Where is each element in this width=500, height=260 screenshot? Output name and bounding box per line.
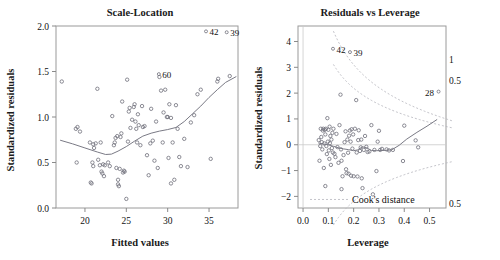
residuals-leverage-title: Residuals vs Leverage: [320, 7, 420, 18]
cooks-distance-legend-label: Cook's distance: [352, 194, 415, 205]
ytick-label: 1.5: [37, 67, 49, 77]
point-label-39: 39: [353, 48, 363, 58]
xtick-label: 20: [80, 216, 90, 226]
ytick-label: −2: [281, 192, 291, 202]
plot-frame: [298, 26, 446, 208]
xtick-label: 30: [163, 216, 173, 226]
point-label-42: 42: [210, 27, 219, 37]
residuals-leverage-chart: −2−1012340.00.10.20.30.40.5Cook's distan…: [250, 0, 500, 260]
ytick-label: 1: [286, 114, 291, 124]
residuals-leverage-xlabel: Leverage: [347, 237, 389, 248]
point-label-28: 28: [425, 88, 435, 98]
point-label-39: 39: [230, 28, 240, 38]
panel-scale-location: 0.00.51.01.52.020253035423960 Scale-Loca…: [0, 0, 250, 260]
cooks-contour-label-1: 1: [449, 55, 454, 65]
xtick-label: 0.1: [322, 216, 334, 226]
xtick-label: 0.4: [398, 216, 410, 226]
xtick-label: 35: [204, 216, 214, 226]
plot-frame: [56, 26, 238, 208]
scale-location-ylabel: Standardized residuals: [5, 69, 16, 172]
ytick-label: −1: [281, 166, 291, 176]
diagnostic-plot-figure: 0.00.51.01.52.020253035423960 Scale-Loca…: [0, 0, 500, 260]
point-label-42: 42: [337, 45, 346, 55]
cooks-contour-label-0.5-top: 0.5: [449, 76, 461, 86]
xtick-label: 0.2: [348, 216, 360, 226]
xtick-label: 0.5: [424, 216, 436, 226]
scale-location-xlabel: Fitted values: [111, 237, 168, 248]
ytick-label: 0.5: [37, 158, 49, 168]
cooks-distance-contour: [333, 31, 452, 121]
data-points: [60, 74, 231, 200]
ytick-label: 3: [286, 63, 291, 73]
ytick-label: 1.0: [37, 113, 49, 123]
scale-location-title: Scale-Location: [107, 7, 174, 18]
residuals-leverage-ylabel: Standardized residuals: [253, 67, 264, 170]
panel-residuals-vs-leverage: −2−1012340.00.10.20.30.40.5Cook's distan…: [250, 0, 500, 260]
ytick-label: 2.0: [37, 22, 49, 32]
lowess-trend-line: [60, 77, 236, 155]
point-label-60: 60: [162, 70, 172, 80]
ytick-label: 2: [286, 89, 291, 99]
xtick-label: 0.3: [373, 216, 385, 226]
scale-location-chart: 0.00.51.01.52.020253035423960 Scale-Loca…: [0, 0, 250, 260]
cooks-contour-label-0.5-bottom: 0.5: [449, 199, 461, 209]
ytick-label: 4: [286, 37, 291, 47]
xtick-label: 25: [122, 216, 132, 226]
xtick-label: 0.0: [297, 216, 309, 226]
ytick-label: 0: [286, 140, 291, 150]
ytick-label: 0.0: [37, 204, 49, 214]
